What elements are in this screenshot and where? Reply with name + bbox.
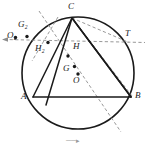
- label-point-G: G: [63, 64, 70, 73]
- label-point-H: H: [73, 42, 80, 51]
- dashed-lines: [4, 11, 145, 132]
- point-G-dot: [73, 65, 76, 68]
- figure-caption-mark: ──▸: [66, 138, 80, 145]
- label-point-A: A: [21, 92, 27, 101]
- point-H2-dot: [46, 41, 49, 44]
- geometry-figure: A B C T H H₂ G O G₂ O₂ ──▸: [0, 0, 151, 150]
- point-G2-dot: [25, 35, 28, 38]
- label-point-B: B: [135, 91, 141, 100]
- cevian-C-foot-right: [72, 18, 131, 97]
- label-point-O: O: [73, 76, 80, 85]
- point-H-dot: [66, 54, 69, 57]
- label-point-G2: G₂: [18, 20, 28, 29]
- label-point-O2: O₂: [7, 31, 17, 40]
- solid-lines: [33, 18, 131, 105]
- label-point-C: C: [68, 2, 74, 11]
- label-point-T: T: [125, 29, 130, 38]
- label-point-H2: H₂: [35, 44, 45, 53]
